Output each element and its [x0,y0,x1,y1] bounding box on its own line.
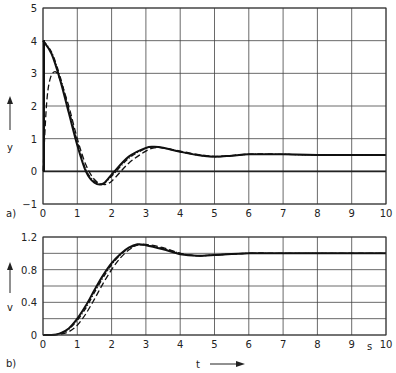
x-tick-label: 8 [314,339,320,350]
x-tick-label: 9 [349,339,355,350]
x-tick-label: 10 [380,339,393,350]
x-tick-label: 5 [211,208,217,219]
y-axis-arrow-b-icon [7,262,13,293]
y-tick-label: 1 [31,134,37,145]
y-tick-label: 0 [31,330,37,341]
x-tick-label: 4 [177,339,183,350]
y-axis-arrow-a-icon [7,96,13,130]
y-tick-label: −1 [22,199,37,210]
y-tick-label: 2 [31,101,37,112]
panel-a-plot: 012345678910−1012345 [22,3,392,219]
chart-canvas: 012345678910−1012345 01234567891000.40.8… [0,0,396,373]
x-tick-label: 3 [143,339,149,350]
x-tick-label: 2 [108,339,114,350]
panel-b-plot: 01234567891000.40.81.2 [21,232,392,350]
y-tick-label: 1.2 [21,232,37,243]
y-axis-label-a: y [7,142,13,153]
x-tick-label: 2 [108,208,114,219]
x-axis-unit: s [367,341,372,352]
x-tick-label: 0 [40,208,46,219]
x-tick-label: 3 [143,208,149,219]
y-tick-label: 4 [31,36,37,47]
x-tick-label: 6 [246,208,252,219]
x-axis-arrow-icon [210,361,245,367]
x-tick-label: 8 [314,208,320,219]
y-tick-label: 0.8 [21,265,37,276]
x-tick-label: 5 [211,339,217,350]
y-axis-label-b: v [7,302,13,313]
y-tick-label: 5 [31,3,37,14]
x-tick-label: 10 [380,208,393,219]
x-tick-label: 9 [349,208,355,219]
x-tick-label: 7 [280,339,286,350]
y-tick-label: 0.4 [21,297,37,308]
y-tick-label: 0 [31,166,37,177]
x-tick-label: 4 [177,208,183,219]
x-tick-label: 7 [280,208,286,219]
x-axis-label: t [196,359,200,370]
x-tick-label: 1 [74,339,80,350]
x-tick-label: 6 [246,339,252,350]
panel-a-label: a) [6,208,16,219]
x-tick-label: 0 [40,339,46,350]
y-tick-label: 3 [31,68,37,79]
x-tick-label: 1 [74,208,80,219]
panel-b-label: b) [6,358,16,369]
